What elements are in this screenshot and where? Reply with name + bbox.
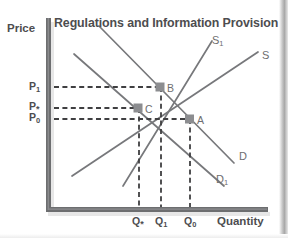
bottom-edge-shadow: [0, 234, 288, 238]
point-label-b: B: [167, 83, 174, 94]
point-marker-b: [156, 83, 165, 92]
x-axis-label: Quantity: [217, 216, 264, 228]
point-marker-c: [134, 104, 143, 113]
y-tick-p0: P0: [29, 112, 40, 123]
right-edge-shadow: [279, 0, 288, 238]
chart-title: Regulations and Information Provision: [54, 17, 278, 29]
y-tick-p1-sub: 1: [36, 85, 40, 94]
point-marker-a: [185, 115, 194, 124]
curve-label-supply-shifted: S1: [212, 35, 224, 46]
x-tick-q1-text: Q: [155, 215, 163, 227]
curve-label-demand-shifted: D1: [216, 174, 228, 185]
y-tick-p0-text: P: [29, 111, 36, 123]
curve-label-supply: S: [262, 50, 269, 61]
point-label-c: C: [145, 104, 153, 115]
x-tick-q0: Q0: [184, 216, 196, 227]
curve-label-demand-shifted-text: D: [216, 173, 224, 185]
y-axis-label: Price: [7, 23, 35, 35]
y-tick-p1-text: P: [29, 80, 36, 92]
chart-axes: [46, 18, 268, 212]
curve-label-demand: D: [239, 151, 247, 162]
curve-label-demand-shifted-sub: 1: [224, 178, 228, 187]
curve-supply: [72, 52, 258, 176]
x-tick-q0-text: Q: [184, 215, 192, 227]
x-tick-q0-sub: 0: [192, 220, 196, 229]
x-tick-qstar: Q*: [132, 216, 144, 227]
x-tick-qstar-sub: *: [140, 219, 144, 229]
chart-figure: Regulations and Information Provision Pr…: [0, 0, 288, 238]
x-tick-qstar-text: Q: [132, 215, 140, 227]
point-label-a: A: [197, 115, 204, 126]
x-tick-q1: Q1: [155, 216, 167, 227]
curve-label-supply-shifted-sub: 1: [219, 39, 223, 48]
x-tick-q1-sub: 1: [163, 220, 167, 229]
y-tick-p1: P1: [29, 81, 40, 92]
chart-canvas: [0, 0, 288, 238]
y-tick-p0-sub: 0: [36, 116, 40, 125]
